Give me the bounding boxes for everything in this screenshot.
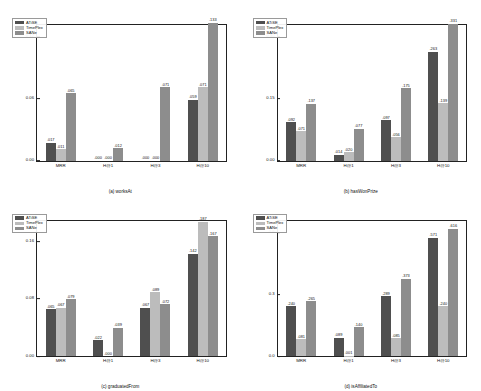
legend-swatch-icon	[15, 222, 24, 225]
bar-group: .142.187.167H@10	[179, 220, 226, 357]
bar-value-label: .616	[450, 224, 458, 228]
bar: .065	[66, 93, 76, 160]
bar: .071	[296, 131, 306, 160]
bar: .187	[198, 222, 208, 356]
x-axis-tick-label: H@1	[344, 164, 354, 168]
legend-b: ATiSETimePlexSANe	[253, 18, 288, 38]
legend-swatch-icon	[256, 227, 265, 230]
legend-swatch-icon	[15, 21, 24, 24]
bar-group: .571.240.616H@10	[420, 220, 467, 357]
x-axis-tick-label: H@3	[391, 359, 401, 363]
bar: .089	[150, 292, 160, 356]
bar-value-label: .014	[335, 150, 343, 154]
bar-value-label: .071	[297, 127, 305, 131]
bar-value-label: .072	[162, 300, 170, 304]
legend-c: ATiSETimePlexSANe	[12, 214, 47, 234]
x-axis-tick-label: H@3	[150, 359, 160, 363]
bar-value-label: .022	[94, 336, 102, 340]
chart-panel-d: 0.00.30.6.240.081.265MRR.089.001.140H@1.…	[241, 196, 481, 391]
legend-swatch-icon	[256, 21, 265, 24]
panel-caption: (a) worksAt	[0, 190, 241, 195]
bar-groups: .240.081.265MRR.089.001.140H@1.289.085.3…	[278, 220, 468, 357]
plot-area-d: 0.00.30.6.240.081.265MRR.089.001.140H@1.…	[247, 210, 476, 388]
bar-group: .000.000.012H@1	[84, 24, 131, 161]
chart-panel-c: 0.000.080.16.065.067.079MRR.022.000.039H…	[0, 196, 241, 391]
bar-value-label: .140	[355, 323, 363, 327]
bar-value-label: .000	[152, 156, 160, 160]
bar: .071	[198, 87, 208, 160]
legend-d: ATiSETimePlexSANe	[253, 214, 288, 234]
bar: .571	[428, 238, 438, 356]
bar: .017	[46, 143, 56, 161]
bar-value-label: .000	[94, 156, 102, 160]
x-axis-tick-label: H@3	[391, 164, 401, 168]
bar-value-label: .373	[402, 274, 410, 278]
bar: .059	[188, 100, 198, 161]
bar-value-label: .289	[382, 292, 390, 296]
legend-swatch-icon	[256, 31, 265, 34]
bar: .240	[438, 306, 448, 356]
bar-value-label: .067	[142, 303, 150, 307]
bar-value-label: .331	[450, 19, 458, 23]
bar-group: .240.081.265MRR	[278, 220, 325, 357]
y-axis-tick-label: 0.00	[26, 354, 37, 358]
bar: .140	[354, 327, 364, 356]
bar: .071	[160, 87, 170, 160]
bar-value-label: .265	[307, 297, 315, 301]
x-axis-tick-label: H@10	[437, 359, 450, 363]
bar-value-label: .085	[392, 334, 400, 338]
bar-value-label: .187	[199, 217, 207, 221]
bar: .020	[344, 152, 354, 160]
bar-group: .097.056.175H@3	[372, 24, 419, 161]
bar: .014	[334, 155, 344, 161]
legend-a: ATiSETimePlexSANe	[12, 18, 47, 38]
legend-item: SANe	[256, 31, 284, 35]
bar-value-label: .142	[189, 249, 197, 253]
bar: .142	[188, 254, 198, 356]
bar-value-label: .081	[297, 335, 305, 339]
bar-group: .065.067.079MRR	[37, 220, 84, 357]
bar-value-label: .071	[199, 83, 207, 87]
bar-group: .014.020.077H@1	[325, 24, 372, 161]
legend-swatch-icon	[256, 26, 265, 29]
y-axis-tick-label: 0.08	[26, 296, 37, 300]
bar-value-label: .133	[209, 18, 217, 22]
legend-label: SANe	[267, 226, 278, 230]
legend-swatch-icon	[15, 26, 24, 29]
bar-group: .022.000.039H@1	[84, 220, 131, 357]
bar: .012	[113, 148, 123, 160]
bar-value-label: .056	[392, 133, 400, 137]
bar-value-label: .240	[440, 302, 448, 306]
bar-group: .092.071.137MRR	[278, 24, 325, 161]
bar-value-label: .067	[57, 303, 65, 307]
x-axis-tick-label: MRR	[56, 164, 66, 168]
x-axis-tick-label: H@10	[197, 359, 210, 363]
panel-caption: (b) hasWonPrize	[241, 190, 481, 195]
bar: .097	[381, 120, 391, 160]
bar: .072	[160, 304, 170, 356]
bar: .039	[113, 328, 123, 356]
x-axis-tick-label: H@1	[344, 359, 354, 363]
bar: .085	[391, 338, 401, 356]
bar: .263	[428, 52, 438, 161]
bar-value-label: .167	[209, 232, 217, 236]
plot-area-c: 0.000.080.16.065.067.079MRR.022.000.039H…	[6, 210, 235, 388]
bar-value-label: .000	[104, 156, 112, 160]
bar: .065	[46, 309, 56, 356]
bar-group: .000.000.071H@3	[132, 24, 179, 161]
bar-group: .059.071.133H@10	[179, 24, 226, 161]
bar-value-label: .089	[335, 333, 343, 337]
legend-label: SANe	[26, 226, 37, 230]
y-axis-tick-label: 0.06	[26, 96, 37, 100]
x-axis-tick-label: H@1	[103, 359, 113, 363]
bar-value-label: .020	[345, 148, 353, 152]
bar-value-label: .097	[382, 116, 390, 120]
bar-groups: .092.071.137MRR.014.020.077H@1.097.056.1…	[278, 24, 468, 161]
x-axis-tick-label: H@1	[103, 164, 113, 168]
y-axis-tick-label: 0.16	[26, 239, 37, 243]
bar: .265	[306, 301, 316, 356]
bar-value-label: .077	[355, 124, 363, 128]
y-axis-tick-label: 0.3	[269, 292, 278, 296]
legend-swatch-icon	[15, 31, 24, 34]
bar-value-label: .175	[402, 84, 410, 88]
